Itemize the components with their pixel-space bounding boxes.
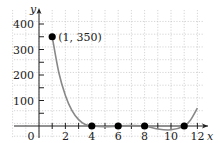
y-tick-label: 400: [13, 18, 34, 31]
data-point: [181, 122, 188, 129]
x-tick-label: 10: [164, 130, 178, 143]
data-point: [88, 122, 95, 129]
point-annotation: (1, 350): [58, 31, 102, 44]
grid: [13, 10, 204, 138]
x-tick-label: 12: [190, 130, 204, 143]
x-tick-label: 2: [62, 130, 69, 143]
data-point: [49, 33, 56, 40]
x-tick-label: 0: [28, 130, 35, 143]
axes: [14, 8, 208, 138]
y-tick-label: 300: [13, 44, 34, 57]
y-axis-label: y: [29, 3, 37, 16]
x-tick-label: 8: [141, 130, 148, 143]
y-tick-label: 200: [13, 69, 34, 82]
curve-line: [52, 37, 197, 130]
x-tick-label: 4: [88, 130, 95, 143]
data-point: [141, 122, 148, 129]
data-point: [115, 122, 122, 129]
y-tick-label: 100: [13, 95, 34, 108]
x-tick-label: 6: [115, 130, 122, 143]
x-axis-label: x: [207, 130, 214, 143]
data-points: [49, 33, 188, 129]
chart: 024681012100200300400xy(1, 350): [0, 0, 220, 143]
